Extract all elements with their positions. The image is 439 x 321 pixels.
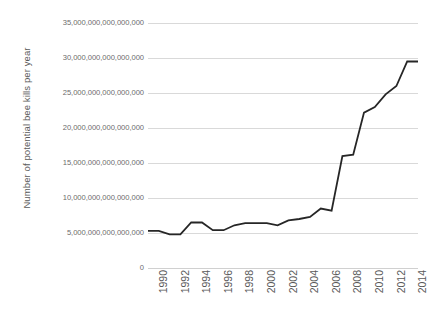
line-chart: Number of potential bee kills per year 0… xyxy=(0,0,439,321)
plot-area xyxy=(148,23,418,268)
y-axis-title: Number of potential bee kills per year xyxy=(16,8,38,248)
x-axis-tick-label: 2010 xyxy=(373,270,385,316)
x-axis-tick-label: 2004 xyxy=(308,270,320,316)
x-axis-tick-label: 2006 xyxy=(330,270,342,316)
y-axis-tick-label: 35,000,000,000,000,000 xyxy=(36,19,144,27)
x-axis-tick-label: 1990 xyxy=(157,270,169,316)
data-polyline xyxy=(148,62,418,235)
y-axis-tick-label: 20,000,000,000,000,000 xyxy=(36,124,144,132)
x-axis-tick-label: 1994 xyxy=(200,270,212,316)
x-axis-tick-labels: 1990199219941996199820002002200420062008… xyxy=(148,270,428,321)
x-axis-tick-label: 2012 xyxy=(395,270,407,316)
y-axis-tick-label: 10,000,000,000,000,000 xyxy=(36,194,144,202)
x-axis-tick-label: 2008 xyxy=(351,270,363,316)
y-axis-tick-label: 30,000,000,000,000,000 xyxy=(36,54,144,62)
y-axis-tick-label: 0 xyxy=(36,264,144,272)
y-axis-tick-labels: 05,000,000,000,000,00010,000,000,000,000… xyxy=(36,0,144,321)
x-axis-tick-label: 2000 xyxy=(265,270,277,316)
y-axis-tick-label: 5,000,000,000,000,000 xyxy=(36,229,144,237)
x-axis-line xyxy=(148,268,418,269)
x-axis-tick-label: 1998 xyxy=(243,270,255,316)
x-axis-tick-label: 2002 xyxy=(287,270,299,316)
data-series-line xyxy=(148,23,418,268)
x-axis-tick-label: 1996 xyxy=(222,270,234,316)
x-axis-tick-label: 1992 xyxy=(179,270,191,316)
y-axis-tick-label: 25,000,000,000,000,000 xyxy=(36,89,144,97)
y-axis-tick-label: 15,000,000,000,000,000 xyxy=(36,159,144,167)
x-axis-tick-label: 2014 xyxy=(416,270,428,316)
